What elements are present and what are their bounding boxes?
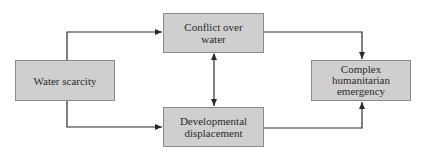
node-label-line: emergency: [337, 86, 385, 97]
node-label: Water scarcity: [34, 75, 97, 87]
node-complex-humanitarian-emergency: Complex humanitarian emergency: [311, 60, 411, 101]
node-developmental-displacement: Developmental displacement: [163, 107, 264, 147]
node-label-line: Developmental: [180, 115, 247, 127]
edge-scarcity-to-displacement: [67, 100, 162, 127]
edge-scarcity-to-conflict: [67, 32, 162, 60]
node-label-line: water: [201, 33, 225, 45]
edge-displacement-to-emergency: [264, 102, 362, 128]
node-water-scarcity: Water scarcity: [15, 60, 115, 101]
node-label-line: displacement: [184, 127, 242, 139]
flow-diagram: Water scarcity Conflict over water Devel…: [0, 0, 424, 154]
node-label-line: Conflict over: [184, 21, 242, 33]
edge-conflict-to-emergency: [264, 32, 362, 59]
node-conflict-over-water: Conflict over water: [163, 13, 264, 53]
